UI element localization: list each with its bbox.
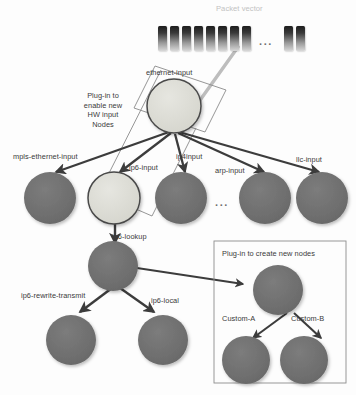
packet-vector-bar — [170, 26, 179, 51]
node-custom-a[interactable] — [222, 336, 270, 384]
edge-custom-parent-to-custom-a — [253, 313, 287, 338]
node-label-llc-input: llc-input — [296, 155, 322, 164]
node-label-ip6-local: ip6-local — [151, 296, 179, 305]
node-label-ip6-lookup: ip6-lookup — [112, 232, 147, 241]
node-label-arp-input: arp-input — [215, 166, 245, 175]
packet-vector-label: Packet vector — [216, 4, 263, 13]
node-label-ip6-rewrite-transmit: ip6-rewrite-transmit — [21, 291, 85, 300]
edge-ip6-lookup-to-ip6-local — [120, 288, 154, 312]
node-label-mpls-ethernet-input: mpls-ethernet-input — [13, 152, 78, 161]
packet-vector-bar — [182, 26, 191, 51]
packet-vector-bar — [296, 26, 305, 51]
node-plugin-box-title: Plug-in to create new nodes — [222, 249, 315, 258]
hw-plugin-annotation: Plug-in to enable new HW input Nodes — [72, 91, 134, 129]
packet-vector-bar — [218, 26, 227, 51]
packet-vector-bar — [230, 26, 239, 51]
packet-vector-ellipsis: ... — [259, 36, 273, 47]
node-label-ip4input: ip4input — [176, 152, 202, 161]
packet-vector-bar — [194, 26, 203, 51]
edge-ip6-lookup-to-custom-parent — [137, 268, 243, 284]
node-custom-parent[interactable] — [253, 265, 303, 315]
node-ip4input[interactable] — [155, 172, 207, 224]
node-ethernet-input[interactable] — [147, 79, 201, 133]
node-ip6-input[interactable] — [88, 172, 140, 224]
diagram-canvas: ... Packet vector ethernet-input Plug-in… — [0, 0, 356, 395]
node-label-custom-a: Custom-A — [222, 314, 255, 323]
node-custom-b[interactable] — [280, 336, 328, 384]
node-ip6-rewrite-transmit[interactable] — [46, 315, 96, 365]
packet-vector-bar — [284, 26, 293, 51]
packet-vector-bar — [242, 26, 251, 51]
node-ip6-local[interactable] — [138, 315, 188, 365]
node-mpls-ethernet-input[interactable] — [24, 172, 76, 224]
node-label-ethernet-input: ethernet-input — [146, 68, 192, 77]
node-arp-input[interactable] — [239, 172, 291, 224]
node-ip6-lookup[interactable] — [88, 241, 138, 291]
node-label-ip6-input: ip6-input — [129, 163, 158, 172]
packet-vector-bar — [206, 26, 215, 51]
node-llc-input[interactable] — [296, 172, 348, 224]
middle-row-ellipsis: ... — [215, 197, 229, 208]
node-label-custom-b: Custom-B — [291, 314, 324, 323]
packet-vector-bar — [158, 26, 167, 51]
graph-svg — [0, 0, 356, 395]
